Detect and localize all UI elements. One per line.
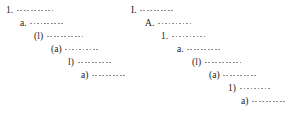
outline-column-right: I.A.1.a.(l)(a)1)a) [128,0,295,114]
dotted-leader-line [252,99,287,103]
dotted-leader-line [205,60,241,64]
dotted-leader-line [240,86,272,90]
outline-row: (a) [51,45,100,55]
outline-row: (l) [34,32,83,42]
outline-marker: l) [68,58,74,68]
outline-marker: (l) [192,58,201,68]
outline-row: (l) [192,58,241,68]
dotted-leader-line [78,60,111,64]
outline-row: I. [131,6,173,16]
outline-row: 1. [161,32,207,42]
outline-marker: I. [131,6,137,16]
dotted-leader-line [30,21,63,25]
dotted-leader-line [140,8,173,12]
outline-marker: a. [20,19,27,29]
outline-row: a) [241,97,287,107]
outline-marker: (l) [34,32,43,42]
outline-row: a) [81,71,127,81]
outline-row: (a) [209,71,256,81]
dotted-leader-line [47,34,83,38]
outline-marker: a) [81,71,89,81]
outline-marker: 1. [6,6,13,16]
dotted-leader-line [17,8,53,12]
outline-row: A. [145,19,192,29]
dotted-leader-line [187,47,220,51]
outline-marker: a) [241,97,249,107]
dotted-leader-line [158,21,192,25]
outline-marker: 1) [228,84,236,94]
outline-marker: (a) [209,71,220,81]
outline-marker: a. [177,45,184,55]
outline-row: l) [68,58,111,68]
dotted-leader-line [172,34,207,38]
outline-row: 1. [6,6,53,16]
outline-row: a. [177,45,220,55]
outline-marker: 1. [161,32,168,42]
outline-marker: (a) [51,45,62,55]
outline-figure: 1.a.(l)(a)l)a) I.A.1.a.(l)(a)1)a) [0,0,295,114]
outline-row: 1) [228,84,272,94]
dotted-leader-line [223,73,256,77]
dotted-leader-line [92,73,127,77]
dotted-leader-line [65,47,100,51]
outline-row: a. [20,19,63,29]
outline-marker: A. [145,19,154,29]
